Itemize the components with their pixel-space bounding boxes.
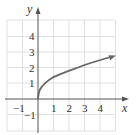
sqrt-graph: y x −1 1 2 3 4 4 3 2 1 −1 xyxy=(0,0,139,135)
x-tick-label: 1 xyxy=(51,102,57,114)
curve-arrow-icon xyxy=(109,55,117,60)
x-tick-label: −1 xyxy=(13,102,25,114)
y-tick-label: −1 xyxy=(24,109,36,121)
y-tick-label: 3 xyxy=(29,46,35,58)
y-tick-label: 4 xyxy=(29,30,35,42)
y-axis-label: y xyxy=(26,2,33,16)
x-tick-label: 3 xyxy=(82,102,88,114)
y-axis-arrow-icon xyxy=(36,7,41,14)
x-axis-label: x xyxy=(121,101,128,115)
y-tick-label: 1 xyxy=(29,77,35,89)
x-tick-label: 2 xyxy=(67,102,73,114)
x-tick-label: 4 xyxy=(98,102,104,114)
y-tick-label: 2 xyxy=(29,62,35,74)
